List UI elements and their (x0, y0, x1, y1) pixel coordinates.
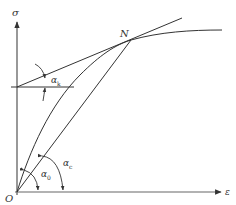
point-N-label: N (119, 28, 130, 39)
stress-strain-diagram: σ ε O N α k α 0 α c (0, 0, 236, 205)
tangent-line-at-N (17, 18, 182, 87)
alpha-0-subscript: 0 (47, 174, 51, 181)
alpha-k-subscript: k (57, 80, 61, 87)
alpha-c-subscript: c (69, 163, 73, 170)
alpha-k-arrow-lower (43, 88, 45, 101)
origin-label: O (5, 193, 13, 204)
sigma-axis-label: σ (12, 7, 20, 18)
epsilon-axis-label: ε (225, 187, 230, 197)
stress-strain-curve (17, 30, 222, 192)
